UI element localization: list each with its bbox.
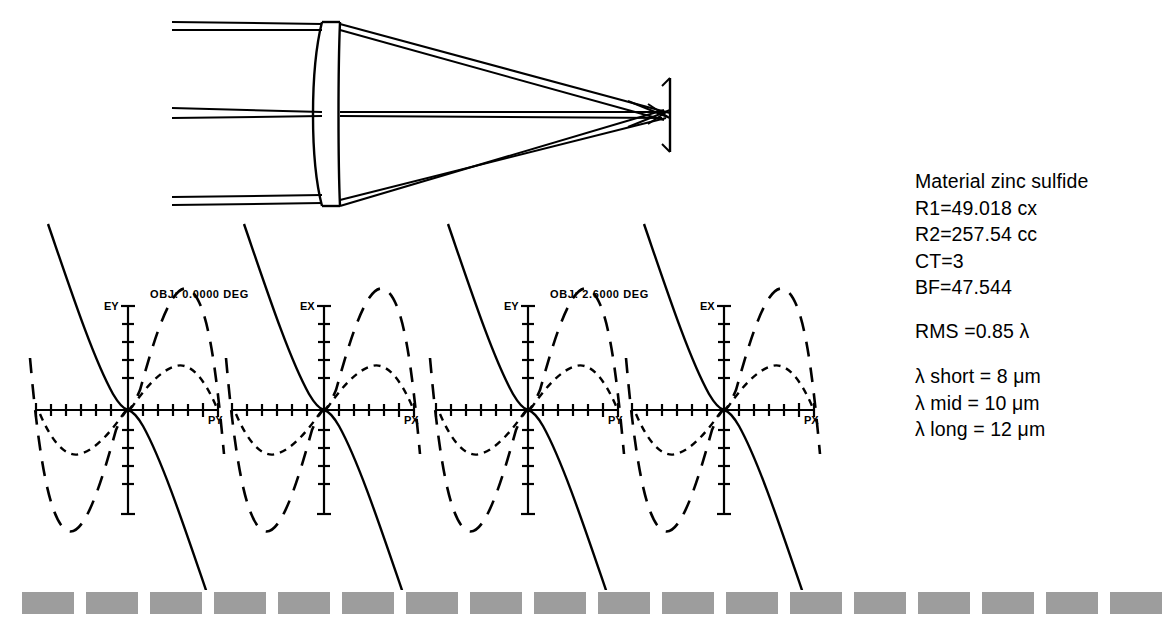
dash-segment [982,592,1034,614]
dash-segment [278,592,330,614]
panel-obj0-tangential: OBJ: 0.0000 DEG EY PY [30,224,249,590]
spec-spacer-2 [915,344,1161,363]
dash-segment [726,592,778,614]
panel-obj0-sagittal: EX PX [226,224,420,590]
dash-segment [598,592,650,614]
dash-segment [534,592,586,614]
dashed-rule [0,592,1164,615]
panel-obj26-sagittal: EX PX [626,224,820,590]
spec-bf: BF=47.544 [915,274,1161,301]
y-axis-label: EY [104,300,119,312]
y-axis-label: EX [300,300,315,312]
dash-segment [470,592,522,614]
dash-segment [22,592,74,614]
spec-spacer-1 [915,301,1161,318]
spec-ct: CT=3 [915,248,1161,275]
spec-wavelength-short: λ short = 8 μm [915,363,1161,390]
lens-layout-diagram [150,0,710,220]
lens-element [313,22,340,206]
x-axis-label: PX [404,414,419,426]
x-axis-label: PY [208,414,223,426]
dash-segment [1110,592,1162,614]
lens-layout-svg [150,0,710,220]
dash-segment [214,592,266,614]
dash-segment [150,592,202,614]
field-label: OBJ: 0.0000 DEG [150,288,249,300]
dash-segment [406,592,458,614]
spec-rms: RMS =0.85 λ [915,318,1161,345]
dash-segment [918,592,970,614]
axial-input-rays [172,108,322,118]
lens-spec-block: Material zinc sulfide R1=49.018 cx R2=25… [915,168,1161,443]
spec-r2: R2=257.54 cc [915,221,1161,248]
y-axis-label: EY [504,300,519,312]
axial-refracted-rays [340,112,662,118]
dash-segment [854,592,906,614]
dash-segment [790,592,842,614]
dash-segment [86,592,138,614]
panel-obj26-tangential: OBJ: 2.6000 DEG EY PY [430,224,649,590]
spec-r1: R1=49.018 cx [915,195,1161,222]
x-axis-label: PY [608,414,623,426]
rayfan-plot-group: OBJ: 0.0000 DEG EY PY [18,218,830,590]
y-axis-label: EX [700,300,715,312]
spec-wavelength-mid: λ mid = 10 μm [915,390,1161,417]
upper-refracted-rays [340,24,666,120]
spec-wavelength-long: λ long = 12 μm [915,416,1161,443]
dash-segment [662,592,714,614]
x-axis-label: PX [804,414,819,426]
field-label: OBJ: 2.6000 DEG [550,288,649,300]
rayfan-svg: OBJ: 0.0000 DEG EY PY [18,218,830,590]
spec-material: Material zinc sulfide [915,168,1161,195]
dash-segment [1046,592,1098,614]
dash-segment [342,592,394,614]
upper-input-rays [172,22,322,30]
page-root: OBJ: 0.0000 DEG EY PY [0,0,1164,621]
lower-input-rays [172,195,322,205]
lower-refracted-rays [340,110,666,206]
